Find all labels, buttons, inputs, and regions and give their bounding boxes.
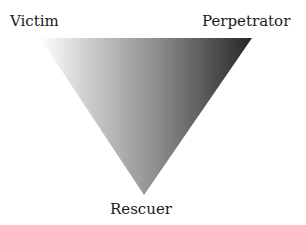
drama-triangle-diagram: Victim Perpetrator Rescuer	[0, 0, 306, 225]
triangle-fill	[40, 38, 252, 195]
triangle-shape	[0, 0, 306, 225]
victim-label: Victim	[10, 14, 59, 29]
perpetrator-label: Perpetrator	[202, 14, 290, 29]
rescuer-label: Rescuer	[110, 202, 172, 217]
